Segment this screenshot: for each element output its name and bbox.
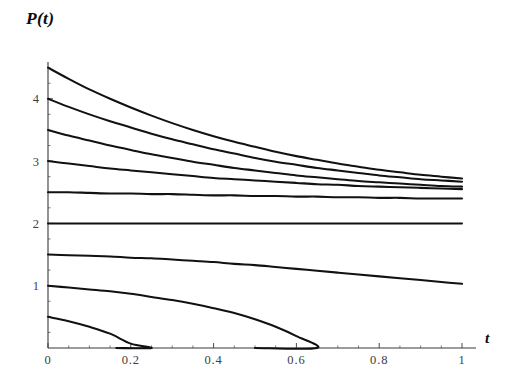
x-tick-label: 0.6: [287, 353, 305, 367]
y-tick-label: 2: [33, 217, 40, 231]
y-axis-tick-labels: 1234: [33, 92, 40, 293]
x-tick-label: 0.2: [122, 353, 140, 367]
y-tick-label: 3: [33, 155, 40, 169]
x-tick-label: 0: [44, 353, 51, 367]
data-curve: [48, 286, 318, 349]
chart-figure: P(t) 00.20.40.60.81 1234 t: [0, 0, 509, 383]
line-chart-plot: 00.20.40.60.81 1234 t: [0, 0, 509, 383]
data-curve: [48, 68, 462, 179]
data-curve: [48, 317, 152, 348]
data-curves-group: [48, 68, 462, 349]
x-tick-label: 0.8: [370, 353, 388, 367]
data-curve: [48, 161, 462, 189]
x-axis-tick-labels: 00.20.40.60.81: [44, 353, 465, 367]
x-axis-label: t: [485, 329, 490, 346]
y-tick-label: 4: [33, 92, 40, 106]
x-tick-label: 0.4: [204, 353, 222, 367]
data-curve: [48, 255, 462, 284]
x-tick-label: 1: [458, 353, 465, 367]
data-curve: [48, 192, 462, 198]
y-tick-label: 1: [33, 279, 40, 293]
